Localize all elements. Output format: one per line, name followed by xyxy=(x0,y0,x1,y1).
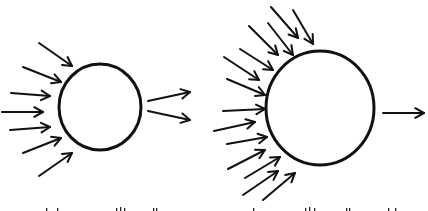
left-incoming-arrow-icon xyxy=(23,67,61,83)
right-incoming-arrow-icon xyxy=(245,157,280,178)
left-incoming-arrow-icon xyxy=(11,91,50,101)
right-incoming-arrow-icon xyxy=(227,79,265,96)
right-incoming-arrow-icon xyxy=(293,10,313,44)
right-caption-clipped xyxy=(250,205,428,211)
diagram-canvas xyxy=(0,0,428,211)
heat-flux-diagram xyxy=(0,0,428,211)
left-outgoing-arrow-icon xyxy=(148,111,190,123)
left-incoming-arrow-icon xyxy=(39,153,72,176)
left-incoming-arrow-icon xyxy=(2,107,43,117)
left-incoming-arrow-icon xyxy=(39,43,72,66)
right-incoming-arrow-icon xyxy=(223,105,265,115)
left-body-circle xyxy=(59,64,141,150)
right-incoming-arrow-icon xyxy=(228,150,265,169)
left-outgoing-arrow-icon xyxy=(148,89,190,101)
right-incoming-arrow-icon xyxy=(224,57,259,80)
left-incoming-arrow-icon xyxy=(23,137,61,153)
right-outgoing-arrow-icon xyxy=(383,108,424,118)
left-incoming-arrow-icon xyxy=(10,123,50,133)
right-incoming-arrow-icon xyxy=(227,134,267,144)
right-incoming-arrow-icon xyxy=(214,119,255,131)
left-caption-clipped xyxy=(40,205,180,211)
right-body-circle xyxy=(266,51,374,165)
